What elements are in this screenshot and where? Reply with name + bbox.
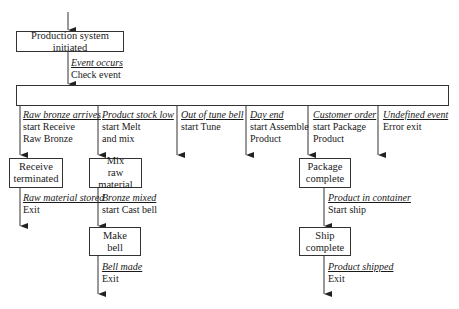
action-label: Product — [250, 133, 309, 145]
event-label: Event occurs — [71, 57, 123, 69]
state-line: Ship — [315, 230, 334, 242]
state-line: Make — [103, 230, 127, 242]
action-label: start Assemble — [250, 121, 309, 133]
state-receive-terminated: Receive terminated — [9, 158, 63, 188]
action-label: start Receive — [23, 121, 101, 133]
transition-bronze-mixed: Bronze mixed start Cast bell — [102, 192, 157, 216]
event-label: Undefined event — [383, 109, 448, 121]
action-label: Start ship — [328, 204, 411, 216]
transition-bell-made: Bell made Exit — [102, 261, 142, 285]
state-line: complete — [306, 173, 344, 185]
state-production-initiated: Production system initiated — [16, 31, 124, 52]
event-label: Customer order — [313, 109, 376, 121]
event-label: Out of tune bell — [181, 109, 244, 121]
action-label: Exit — [328, 273, 393, 285]
transition-product-in-container: Product in container Start ship — [328, 192, 411, 216]
event-label: Raw material stored — [23, 192, 104, 204]
action-label: start Cast bell — [102, 204, 157, 216]
state-line: bell — [107, 242, 123, 254]
state-line: Package — [308, 161, 343, 173]
action-label: Raw Bronze — [23, 133, 101, 145]
action-label: Product — [313, 133, 376, 145]
state-line: raw material — [90, 167, 141, 191]
transition-event-occurs: Event occurs Check event — [71, 57, 123, 81]
branch-undefined-event: Undefined event Error exit — [383, 109, 448, 133]
action-label: start Tune — [181, 121, 244, 133]
event-label: Raw bronze arrives — [23, 109, 101, 121]
state-line: terminated — [14, 173, 59, 185]
branch-day-end: Day end start Assemble Product — [250, 109, 309, 145]
action-label: Exit — [23, 204, 104, 216]
branch-product-stock-low: Product stock low start Melt and mix — [102, 109, 174, 145]
branch-raw-bronze: Raw bronze arrives start Receive Raw Bro… — [23, 109, 101, 145]
event-label: Product in container — [328, 192, 411, 204]
branch-out-of-tune: Out of tune bell start Tune — [181, 109, 244, 133]
action-label: Exit — [102, 273, 142, 285]
action-label: start Melt — [102, 121, 174, 133]
state-line: Receive — [19, 161, 53, 173]
event-label: Day end — [250, 109, 309, 121]
event-label: Bell made — [102, 261, 142, 273]
action-label: Error exit — [383, 121, 448, 133]
action-label: and mix — [102, 133, 174, 145]
event-label: Product shipped — [328, 261, 393, 273]
state-line: complete — [306, 242, 344, 254]
event-label: Product stock low — [102, 109, 174, 121]
transition-raw-material-stored: Raw material stored Exit — [23, 192, 104, 216]
state-ship-complete: Ship complete — [299, 227, 351, 256]
action-label: start Package — [313, 121, 376, 133]
state-line: Mix — [107, 155, 125, 167]
state-make-bell: Make bell — [89, 227, 141, 256]
state-package-complete: Package complete — [299, 158, 351, 188]
action-label: Check event — [71, 69, 123, 81]
event-dispatch-bar — [16, 85, 449, 106]
transition-product-shipped: Product shipped Exit — [328, 261, 393, 285]
branch-customer-order: Customer order start Package Product — [313, 109, 376, 145]
event-label: Bronze mixed — [102, 192, 157, 204]
state-mix-raw-material: Mix raw material — [89, 158, 142, 188]
